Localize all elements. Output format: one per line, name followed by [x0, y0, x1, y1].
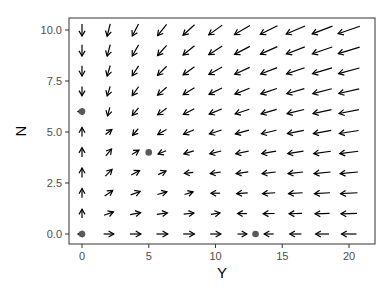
y-tick-label: 0.0 — [47, 228, 62, 240]
equilibrium-point — [79, 108, 86, 115]
y-tick-label: 7.5 — [47, 75, 62, 87]
equilibrium-point — [79, 231, 86, 238]
x-tick-label: 15 — [276, 250, 288, 262]
x-axis-title: Y — [217, 264, 227, 281]
y-axis-ticks: 0.02.55.07.510.0 — [41, 24, 69, 240]
vector-field-plot: 05101520 0.02.55.07.510.0 Y N — [0, 0, 391, 293]
x-axis-ticks: 05101520 — [79, 244, 355, 262]
x-tick-label: 0 — [79, 250, 85, 262]
x-tick-label: 10 — [209, 250, 221, 262]
equilibrium-point — [145, 149, 152, 156]
y-tick-label: 2.5 — [47, 177, 62, 189]
y-axis-title: N — [12, 126, 29, 137]
y-tick-label: 5.0 — [47, 126, 62, 138]
x-tick-label: 20 — [343, 250, 355, 262]
x-tick-label: 5 — [146, 250, 152, 262]
y-tick-label: 10.0 — [41, 24, 62, 36]
equilibrium-point — [252, 231, 259, 238]
